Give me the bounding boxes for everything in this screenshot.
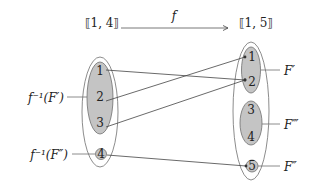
codomain-node-2: 2 [248,75,256,89]
label-f-triple-prime: F‴ [283,118,299,132]
codomain-set-label: ⟦1, 5⟧ [239,16,274,30]
mapping-4-to-5 [107,155,246,166]
label-preimage-f-double-prime: f⁻¹(F″) [29,148,68,162]
function-label: f [171,9,179,23]
codomain-node-1: 1 [248,50,256,64]
domain-node-3: 3 [96,116,104,130]
codomain-node-5: 5 [248,159,256,173]
codomain-node-3: 3 [247,103,255,117]
label-preimage-f-prime: f⁻¹(F′) [27,91,64,105]
function-diagram: ⟦1, 4⟧ f ⟦1, 5⟧ 1 2 3 4 1 2 3 4 5 f⁻¹(F′… [0,0,319,192]
mapping-2-to-1 [106,57,245,101]
domain-set-label: ⟦1, 4⟧ [85,16,120,30]
domain-node-1: 1 [96,64,104,78]
domain-node-4: 4 [97,147,105,161]
mapping-1-to-2 [106,70,245,80]
domain-node-2: 2 [96,90,104,104]
codomain-node-4: 4 [247,130,255,144]
label-f-prime: F′ [283,64,295,78]
mapping-lines [106,57,246,166]
mapping-3-to-2 [106,80,245,127]
label-f-double-prime: F″ [283,160,297,174]
